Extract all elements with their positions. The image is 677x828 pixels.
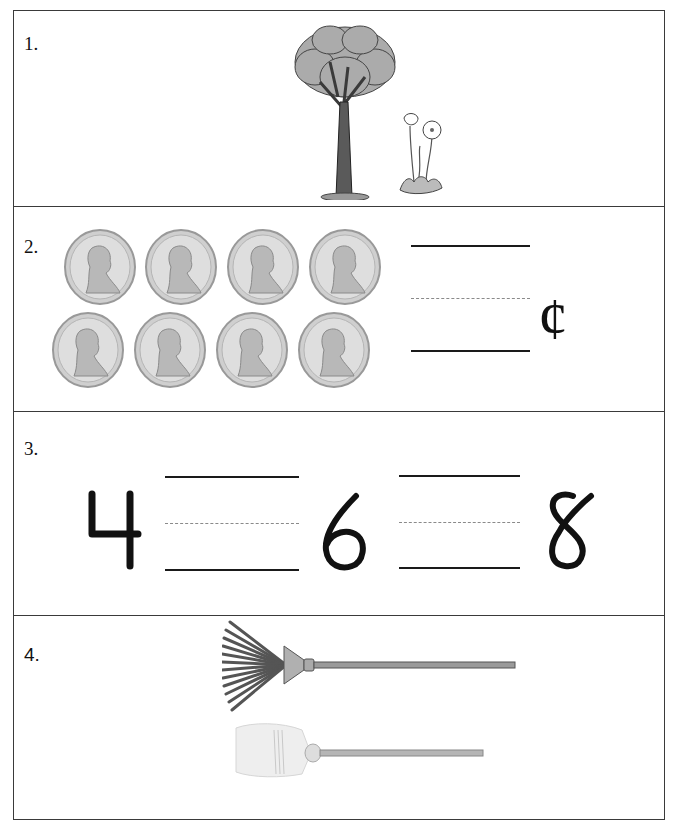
broom-icon (232, 720, 487, 780)
penny-icon (228, 230, 298, 304)
digit-8 (541, 490, 597, 572)
writing-line-middle-dashed (165, 523, 299, 524)
writing-line-bottom (165, 569, 299, 571)
pennies-group (50, 225, 390, 395)
section-divider-1 (13, 206, 665, 207)
penny-icon (310, 230, 380, 304)
section-divider-2 (13, 411, 665, 412)
writing-line-bottom (399, 567, 520, 569)
cent-sign: ¢ (538, 289, 568, 349)
writing-line-bottom (411, 350, 530, 352)
problem-number: 1. (24, 33, 38, 55)
rake-icon (222, 618, 522, 718)
penny-icon (146, 230, 216, 304)
problem-number: 2. (24, 236, 38, 258)
tree-icon (290, 22, 400, 200)
writing-line-top (399, 475, 520, 477)
flower-icon (396, 112, 448, 196)
writing-line-middle-dashed (411, 298, 530, 299)
problem-number: 3. (24, 438, 38, 460)
penny-icon (217, 313, 287, 387)
writing-line-middle-dashed (399, 522, 520, 523)
writing-line-top (165, 476, 299, 478)
digit-4 (86, 490, 146, 570)
digit-6 (318, 492, 372, 572)
penny-icon (53, 313, 123, 387)
penny-icon (135, 313, 205, 387)
problem-number: 4. (24, 644, 40, 666)
writing-line-top (411, 245, 530, 247)
penny-icon (299, 313, 369, 387)
penny-icon (65, 230, 135, 304)
section-divider-3 (13, 615, 665, 616)
